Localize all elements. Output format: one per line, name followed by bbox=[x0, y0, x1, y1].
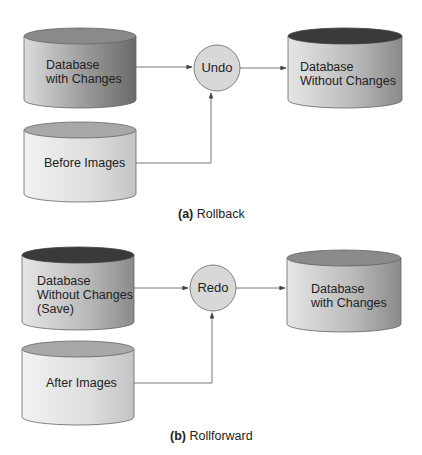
label-after-images: After Images bbox=[46, 376, 117, 390]
label-line: Without Changes bbox=[300, 74, 396, 88]
label-database-without-changes-save: Database Without Changes (Save) bbox=[37, 274, 133, 316]
label-line: Database bbox=[311, 282, 387, 296]
label-before-images: Before Images bbox=[44, 156, 125, 170]
label-line: Database bbox=[37, 274, 133, 288]
label-line: Without Changes bbox=[37, 288, 133, 302]
label-line: Database bbox=[300, 60, 396, 74]
label-redo: Redo bbox=[191, 280, 235, 295]
arrow-after-images-to-redo bbox=[134, 313, 212, 383]
caption-text: Rollback bbox=[197, 207, 245, 221]
caption-prefix: (a) bbox=[178, 207, 193, 221]
label-line: with Changes bbox=[311, 296, 387, 310]
caption-text: Rollforward bbox=[189, 429, 252, 443]
label-line: Database bbox=[46, 58, 122, 72]
caption-rollforward: (b) Rollforward bbox=[170, 429, 253, 443]
label-line: (Save) bbox=[37, 302, 133, 316]
label-database-without-changes-a: Database Without Changes bbox=[300, 60, 396, 88]
label-database-with-changes-b: Database with Changes bbox=[311, 282, 387, 310]
caption-prefix: (b) bbox=[170, 429, 186, 443]
label-undo: Undo bbox=[195, 60, 239, 75]
label-database-with-changes-a: Database with Changes bbox=[46, 58, 122, 86]
arrow-before-images-to-undo bbox=[136, 93, 211, 163]
label-line: with Changes bbox=[46, 72, 122, 86]
caption-rollback: (a) Rollback bbox=[178, 207, 245, 221]
